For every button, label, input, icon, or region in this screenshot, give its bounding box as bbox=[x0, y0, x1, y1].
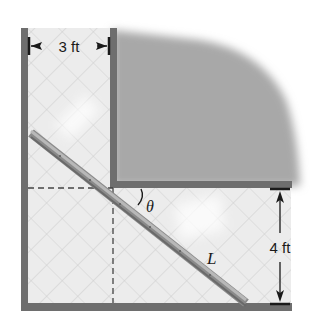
ladder-corner-diagram: θ L 3 ft 4 ft bbox=[0, 0, 314, 334]
left-outer-wall bbox=[21, 28, 28, 311]
outside-area-blob bbox=[112, 30, 300, 186]
vertical-hall-width-label: 3 ft bbox=[59, 38, 81, 55]
bottom-outer-wall bbox=[21, 303, 292, 311]
ladder-label: L bbox=[206, 249, 216, 268]
angle-label: θ bbox=[146, 198, 154, 215]
inner-corner-wall-vertical bbox=[110, 28, 117, 188]
horizontal-hall-width-label: 4 ft bbox=[270, 239, 292, 256]
inner-corner-wall-horizontal bbox=[110, 181, 292, 188]
